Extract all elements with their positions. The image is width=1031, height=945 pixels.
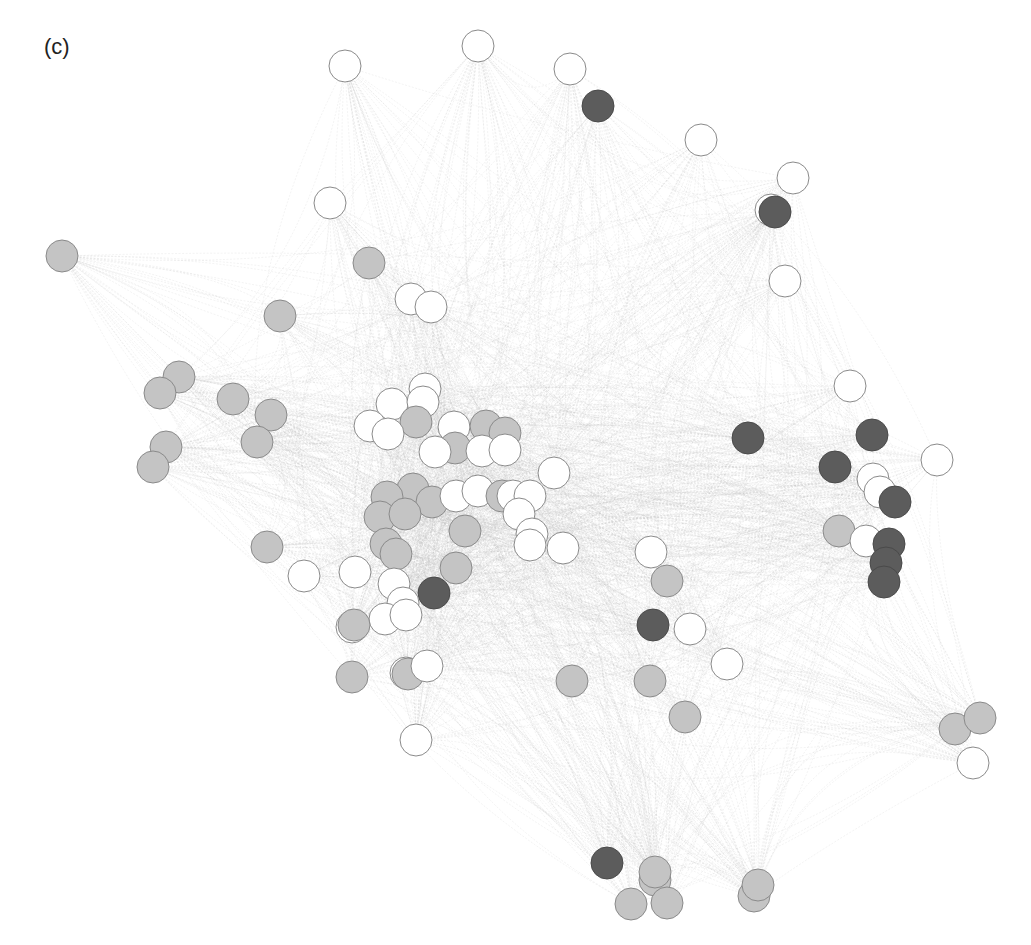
graph-node-dark bbox=[418, 577, 450, 609]
graph-node-white bbox=[288, 560, 320, 592]
graph-node-white bbox=[957, 747, 989, 779]
edge bbox=[754, 718, 980, 896]
edge bbox=[411, 106, 598, 299]
edge bbox=[478, 46, 850, 386]
graph-node-white bbox=[489, 434, 521, 466]
graph-node-light bbox=[144, 377, 176, 409]
graph-node-dark bbox=[732, 422, 764, 454]
edge bbox=[754, 544, 889, 896]
edge bbox=[179, 316, 281, 380]
graph-node-light bbox=[669, 701, 701, 733]
graph-node-white bbox=[554, 53, 586, 85]
graph-node-light bbox=[353, 247, 385, 279]
graph-node-light bbox=[639, 856, 671, 888]
graph-node-light bbox=[338, 609, 370, 641]
edge bbox=[62, 256, 233, 399]
graph-node-light bbox=[400, 406, 432, 438]
edge bbox=[233, 66, 355, 399]
edge bbox=[416, 582, 884, 740]
graph-node-light bbox=[615, 888, 647, 920]
graph-node-white bbox=[674, 613, 706, 645]
graph-node-dark bbox=[856, 419, 888, 451]
edge bbox=[631, 752, 973, 904]
graph-node-dark bbox=[759, 196, 791, 228]
graph-node-light bbox=[440, 552, 472, 584]
graph-node-white bbox=[411, 650, 443, 682]
edge bbox=[631, 729, 955, 904]
graph-node-white bbox=[834, 370, 866, 402]
graph-node-light bbox=[651, 887, 683, 919]
graph-node-white bbox=[514, 529, 546, 561]
edge bbox=[160, 66, 345, 393]
edge bbox=[791, 178, 980, 718]
graph-node-light bbox=[651, 565, 683, 597]
graph-node-white bbox=[711, 648, 743, 680]
graph-node-light bbox=[449, 515, 481, 547]
edge bbox=[655, 722, 955, 880]
edge bbox=[771, 210, 872, 435]
graph-node-dark bbox=[879, 486, 911, 518]
edge bbox=[754, 763, 973, 896]
edge bbox=[886, 563, 980, 718]
edge bbox=[392, 178, 793, 404]
graph-node-white bbox=[538, 457, 570, 489]
graph-node-white bbox=[390, 599, 422, 631]
edge bbox=[62, 256, 280, 316]
graph-node-dark bbox=[591, 847, 623, 879]
edge bbox=[478, 46, 793, 181]
graph-node-light bbox=[137, 451, 169, 483]
graph-node-light bbox=[964, 702, 996, 734]
graph-node-white bbox=[329, 50, 361, 82]
graph-node-white bbox=[415, 291, 447, 323]
graph-node-light bbox=[634, 665, 666, 697]
edge bbox=[651, 552, 759, 885]
graph-node-light bbox=[742, 869, 774, 901]
graph-node-white bbox=[547, 532, 579, 564]
edge bbox=[598, 106, 872, 435]
graph-node-dark bbox=[819, 451, 851, 483]
edge bbox=[570, 69, 973, 763]
graph-node-dark bbox=[868, 566, 900, 598]
graph-node-dark bbox=[637, 609, 669, 641]
edge bbox=[655, 492, 880, 880]
graph-node-dark bbox=[582, 90, 614, 122]
edge bbox=[701, 140, 748, 438]
graph-node-white bbox=[400, 724, 432, 756]
graph-node-white bbox=[462, 30, 494, 62]
graph-node-light bbox=[241, 426, 273, 458]
graph-node-light bbox=[336, 661, 368, 693]
edge bbox=[754, 718, 980, 896]
graph-node-light bbox=[389, 498, 421, 530]
graph-node-light bbox=[556, 665, 588, 697]
graph-node-white bbox=[339, 556, 371, 588]
graph-node-light bbox=[217, 383, 249, 415]
graph-node-white bbox=[685, 124, 717, 156]
graph-node-light bbox=[380, 538, 412, 570]
edge bbox=[153, 203, 330, 467]
edge bbox=[62, 256, 280, 316]
edge bbox=[62, 253, 785, 281]
graph-node-white bbox=[314, 187, 346, 219]
graph-node-white bbox=[372, 418, 404, 450]
graph-node-white bbox=[777, 162, 809, 194]
edge bbox=[478, 46, 775, 212]
graph-node-light bbox=[251, 531, 283, 563]
graph-node-white bbox=[921, 444, 953, 476]
graph-node-light bbox=[46, 240, 78, 272]
graph-node-white bbox=[769, 265, 801, 297]
graph-node-light bbox=[264, 300, 296, 332]
graph-node-white bbox=[635, 536, 667, 568]
edge bbox=[631, 729, 955, 904]
network-graph bbox=[0, 0, 1031, 945]
graph-node-white bbox=[419, 436, 451, 468]
